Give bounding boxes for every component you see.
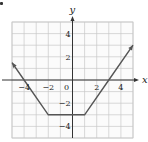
function-graph: xy−4−224042−2−4 [0, 0, 148, 142]
x-axis-arrow-icon [134, 78, 139, 82]
x-tick-label: −2 [42, 83, 54, 92]
x-tick-label: −4 [18, 83, 30, 92]
x-tick-label: 4 [118, 83, 123, 92]
x-tick-label: 2 [94, 83, 99, 92]
y-axis-label: y [69, 4, 76, 15]
y-tick-label: −4 [59, 122, 71, 131]
origin-label: 0 [64, 83, 69, 92]
y-tick-label: 2 [65, 53, 70, 62]
y-tick-label: −2 [59, 99, 71, 108]
x-axis-label: x [142, 74, 148, 85]
y-axis-arrow-icon [71, 16, 75, 21]
y-tick-label: 4 [65, 30, 70, 39]
